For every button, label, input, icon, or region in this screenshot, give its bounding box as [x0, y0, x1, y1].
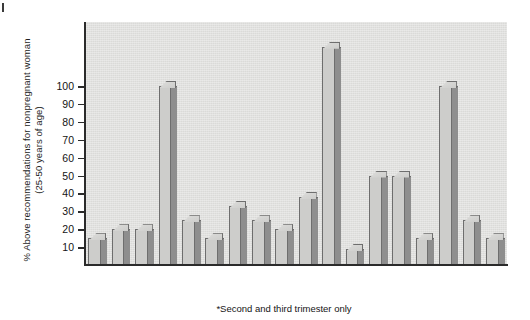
bar-side-face: [147, 230, 154, 264]
y-tick-mark: [78, 247, 85, 249]
bar-side-face: [451, 87, 458, 264]
y-tick-mark: [78, 122, 85, 124]
y-tick-mark: [78, 158, 85, 160]
bar-top-face: [113, 224, 130, 231]
bar-side-face: [287, 230, 294, 264]
bar-side-face: [357, 250, 364, 264]
bar-top-face: [464, 215, 481, 222]
bar-top-face: [370, 171, 387, 178]
bar-side-face: [311, 198, 318, 264]
bar: [205, 238, 224, 265]
bar: [135, 229, 154, 265]
y-tick-label: 100: [0, 80, 74, 92]
bar: [346, 249, 365, 265]
bar: [486, 238, 505, 265]
y-tick-label: 50: [0, 170, 74, 182]
bar-top-face: [206, 233, 223, 240]
bar-side-face: [381, 177, 388, 265]
y-tick-label: 40: [0, 187, 74, 199]
y-tick-mark: [78, 140, 85, 142]
bar: [439, 86, 458, 265]
bar-top-face: [89, 233, 106, 240]
y-tick-label: 70: [0, 134, 74, 146]
y-tick-label: 60: [0, 152, 74, 164]
bar-side-face: [404, 177, 411, 265]
bar-side-face: [334, 48, 341, 264]
y-tick-label: 30: [0, 205, 74, 217]
y-tick-label: 80: [0, 116, 74, 128]
bar-top-face: [487, 233, 504, 240]
y-tick-label: 90: [0, 98, 74, 110]
figure-canvas: % Above recommendations for nonpregnant …: [0, 0, 530, 320]
bar-side-face: [100, 239, 107, 264]
y-axis-title: % Above recommendations for nonpregnant …: [21, 25, 45, 275]
bar-top-face: [160, 81, 177, 88]
bar: [159, 86, 178, 265]
bar: [182, 220, 201, 265]
y-tick-mark: [78, 176, 85, 178]
y-axis-title-line2: (25-50 years of age): [33, 25, 45, 275]
bar-top-face: [300, 192, 317, 199]
bar-side-face: [123, 230, 130, 264]
y-tick-mark: [78, 86, 85, 88]
bar-side-face: [427, 239, 434, 264]
bar-top-face: [347, 244, 364, 251]
x-axis-line: [84, 264, 508, 266]
bar: [229, 206, 248, 265]
bar: [112, 229, 131, 265]
y-tick-mark: [78, 211, 85, 213]
bar-top-face: [253, 215, 270, 222]
bar-top-face: [276, 224, 293, 231]
bar-top-face: [440, 81, 457, 88]
bar-side-face: [498, 239, 505, 264]
plot-area: [86, 22, 507, 265]
bar: [252, 220, 271, 265]
y-tick-label: 20: [0, 223, 74, 235]
bar-side-face: [264, 221, 271, 264]
bar: [463, 220, 482, 265]
y-tick-label: 10: [0, 241, 74, 253]
bar-top-face: [393, 171, 410, 178]
bar-side-face: [194, 221, 201, 264]
bar: [275, 229, 294, 265]
y-tick-mark: [78, 104, 85, 106]
y-tick-mark: [78, 193, 85, 195]
bar-side-face: [240, 207, 247, 264]
bar-top-face: [417, 233, 434, 240]
figure-corner-mark: [2, 3, 4, 12]
bar: [322, 47, 341, 265]
bar: [88, 238, 107, 265]
bar: [392, 176, 411, 266]
bar-side-face: [474, 221, 481, 264]
figure-footnote: *Second and third trimester only: [0, 303, 530, 314]
bar-top-face: [183, 215, 200, 222]
bar-top-face: [136, 224, 153, 231]
bar-top-face: [230, 201, 247, 208]
bar-side-face: [170, 87, 177, 264]
bar: [299, 197, 318, 265]
bar: [369, 176, 388, 266]
bar: [416, 238, 435, 265]
bar-top-face: [323, 42, 340, 49]
y-tick-mark: [78, 229, 85, 231]
bar-side-face: [217, 239, 224, 264]
